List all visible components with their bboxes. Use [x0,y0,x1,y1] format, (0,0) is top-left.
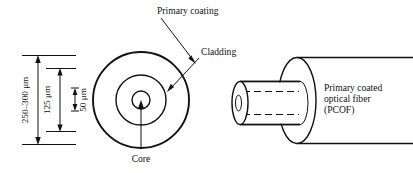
label-cladding: Cladding [201,46,236,57]
dimension-coating-diameter [35,55,40,145]
arrowhead-coating-top [35,55,40,63]
fiber-front-face-core [236,95,242,111]
fiber-cylinder-body-fill [240,82,300,123]
label-pcof-line2: optical fiber [324,93,371,104]
optical-fiber-figure: 250–300 μm 125 μm 50 μm [0,0,413,173]
figure-canvas: 250–300 μm 125 μm 50 μm [0,0,413,173]
label-pcof-line3: (PCOF) [324,104,354,116]
dimension-label-coating: 250–300 μm [20,77,30,124]
leader-line-primary-coating [161,18,193,60]
dimension-label-core: 50 μm [78,88,88,112]
dimension-group: 250–300 μm 125 μm 50 μm [20,55,88,145]
dimension-cladding-diameter [57,68,62,132]
arrowhead-cladding-top [57,68,62,76]
arrowhead-core-bottom [73,104,78,111]
label-primary-coating: Primary coating [157,5,219,16]
label-pcof-line1: Primary coated [324,82,383,93]
label-core: Core [132,153,151,164]
label-pcof: Primary coated optical fiber (PCOF) [324,82,383,116]
perspective-view-group [232,58,413,144]
dimension-label-cladding: 125 μm [42,86,52,114]
arrowhead-core-top [73,88,78,95]
arrowhead-coating-bottom [35,137,40,145]
arrowhead-cladding-bottom [57,125,62,133]
